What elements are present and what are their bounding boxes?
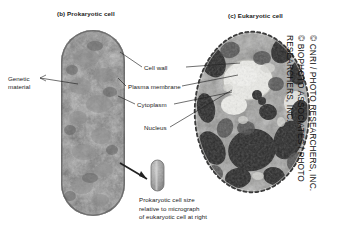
scale-caption-line3: of eukaryotic cell at right xyxy=(139,213,207,220)
figure-cell-comparison: (b) Prokaryotic cell (c) Eukaryotic cell… xyxy=(0,0,357,230)
panel-title-eukaryotic: (c) Eukaryotic cell xyxy=(228,12,283,19)
photo-credit-line2: © BIOPHOTO ASSOCIATES / PHOTO xyxy=(295,35,307,191)
label-genetic-material: Genetic material xyxy=(8,75,30,90)
label-cytoplasm: Cytoplasm xyxy=(137,101,167,109)
scale-capsule xyxy=(151,160,164,191)
photo-credit-line1: © CNRI / PHOTO RESEARCHERS, INC. xyxy=(306,35,318,191)
label-genetic-material-line1: Genetic xyxy=(8,75,30,82)
label-nucleus: Nucleus xyxy=(144,124,167,132)
label-cell-wall: Cell wall xyxy=(144,64,168,72)
scale-caption: Prokaryotic cell size relative to microg… xyxy=(139,196,207,222)
panel-title-prokaryotic: (b) Prokaryotic cell xyxy=(57,10,115,17)
photo-credit-line3: RESEARCHERS, INC. xyxy=(283,35,295,191)
photo-credit: © CNRI / PHOTO RESEARCHERS, INC. © BIOPH… xyxy=(283,35,318,191)
scale-caption-line2: relative to micrograph xyxy=(139,205,200,212)
label-plasma-membrane: Plasma membrane xyxy=(128,83,181,91)
scale-caption-line1: Prokaryotic cell size xyxy=(139,196,195,203)
prokaryotic-cell-micrograph xyxy=(61,30,125,216)
label-genetic-material-line2: material xyxy=(8,83,30,90)
